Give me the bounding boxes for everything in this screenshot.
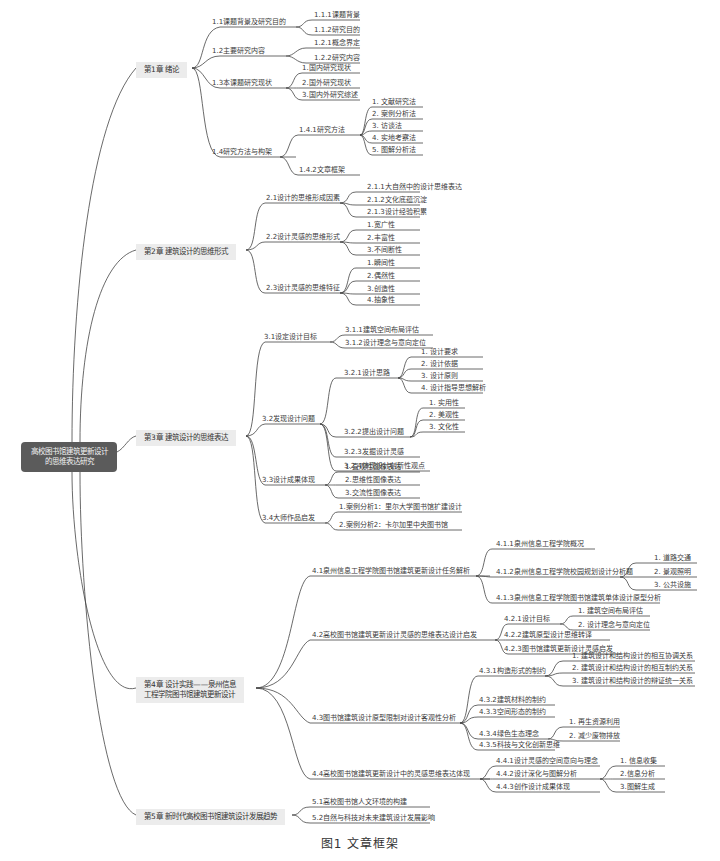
root-title-line2: 的思维表达研究: [45, 457, 94, 466]
item-4-4-2-2[interactable]: 2.信息分析: [620, 770, 655, 779]
section-4-4[interactable]: 4.4高校图书馆建筑更新设计中的灵感思维表达体现: [312, 770, 470, 779]
item-4-2-1-2[interactable]: 2. 设计理念与意向定位: [578, 621, 650, 630]
section-3-2[interactable]: 3.2发现设计问题: [262, 415, 315, 424]
sub-3-2-3[interactable]: 3.2.3发掘设计灵感: [344, 448, 404, 457]
sub-4-3-4[interactable]: 4.3.4绿色生态理念: [479, 730, 539, 739]
section-1-4[interactable]: 1.4研究方法与构架: [212, 148, 272, 157]
sub-4-3-1[interactable]: 4.3.1构造形式的制约: [479, 667, 546, 676]
item-1-4-1-5[interactable]: 5. 图解分析法: [372, 146, 416, 155]
item-4-3-4-2[interactable]: 2. 减少废物排放: [569, 732, 620, 741]
item-1-4-1-2[interactable]: 2. 案例分析法: [372, 110, 416, 119]
sub-4-1-2[interactable]: 4.1.2泉州信息工程学院校园规划设计分析题: [496, 568, 633, 577]
section-3-3[interactable]: 3.3设计成果体现: [262, 476, 315, 485]
item-1-3-2[interactable]: 2.国外研究现状: [302, 79, 351, 88]
item-2-1-3[interactable]: 2.1.3设计经验积累: [367, 208, 427, 217]
item-3-2-1-4[interactable]: 4. 设计指导思想解析: [421, 384, 486, 393]
item-2-1-2[interactable]: 2.1.2文化底蕴沉淀: [367, 196, 427, 205]
figure-caption: 图1 文章框架: [0, 834, 720, 851]
item-2-1-1[interactable]: 2.1.1大自然中的设计思维表达: [367, 183, 462, 192]
sub-1-4-1[interactable]: 1.4.1研究方法: [299, 126, 345, 135]
item-4-2-1-1[interactable]: 1. 建筑空间布局评估: [578, 607, 643, 616]
item-3-2-2-3[interactable]: 3. 文化性: [429, 423, 459, 432]
sub-4-4-2[interactable]: 4.4.2设计深化与图解分析: [496, 770, 577, 779]
item-2-2-1[interactable]: 1.宽广性: [367, 221, 395, 230]
item-3-3-1[interactable]: 1.直观性图像表达: [345, 463, 401, 472]
item-4-1-2-3[interactable]: 3. 公共设施: [654, 581, 691, 590]
item-1-2-1[interactable]: 1.2.1概念界定: [314, 39, 360, 48]
item-4-3-1-3[interactable]: 3. 建筑设计和结构设计的辩证统一关系: [572, 677, 693, 686]
item-3-2-1-2[interactable]: 2. 设计依据: [421, 360, 458, 369]
item-3-2-2-2[interactable]: 2. 美观性: [429, 411, 459, 420]
section-4-3[interactable]: 4.3图书馆建筑设计原型限制对设计客观性分析: [312, 714, 456, 723]
section-1-1[interactable]: 1.1课题背景及研究目的: [212, 18, 286, 27]
sub-4-1-3[interactable]: 4.1.3泉州信息工程学院图书馆建筑单体设计原型分析: [496, 594, 661, 603]
chapter-3-node[interactable]: 第3章 建筑设计的思维表达: [136, 430, 236, 446]
section-4-1[interactable]: 4.1泉州信息工程学院图书馆建筑更新设计任务解析: [312, 567, 470, 576]
item-4-3-4-1[interactable]: 1. 再生资源利用: [569, 718, 620, 727]
chapter-4-line1: 第4章 设计实践——泉州信息: [144, 680, 236, 689]
section-5-1[interactable]: 5.1高校图书馆人文环境的构建: [312, 798, 407, 807]
item-2-3-3[interactable]: 3.创造性: [367, 285, 395, 294]
chapter-2-node[interactable]: 第2章 建筑设计的思维形式: [136, 244, 236, 260]
item-3-3-2[interactable]: 2.思维性图像表达: [345, 476, 401, 485]
item-3-4-2[interactable]: 2.案例分析2：卡尔加里中央图书馆: [339, 521, 448, 530]
item-2-3-4[interactable]: 4.抽象性: [367, 296, 395, 305]
section-3-4[interactable]: 3.4大师作品启发: [262, 514, 315, 523]
sub-4-4-3[interactable]: 4.4.3创作设计成果体现: [496, 783, 570, 792]
section-5-2[interactable]: 5.2自然与科技对未来建筑设计发展影响: [312, 814, 435, 823]
chapter-1-node[interactable]: 第1章 绪论: [136, 62, 187, 78]
sub-4-2-1[interactable]: 4.2.1设计目标: [504, 615, 550, 624]
item-4-3-1-1[interactable]: 1. 建筑设计和结构设计的相互协调关系: [572, 652, 693, 661]
root-node[interactable]: 高校图书馆建筑更新设计的思维表达研究: [21, 442, 117, 472]
item-4-1-2-1[interactable]: 1. 道路交通: [654, 554, 691, 563]
item-3-4-1[interactable]: 1.案例分析1：里尔大学图书馆扩建设计: [339, 503, 462, 512]
sub-3-2-2[interactable]: 3.2.2提出设计问题: [344, 428, 404, 437]
sub-1-4-2[interactable]: 1.4.2文章框架: [299, 166, 345, 175]
section-2-1[interactable]: 2.1设计的思维形成因素: [266, 194, 340, 203]
section-4-2[interactable]: 4.2高校图书馆建筑更新设计灵感的思维表达设计启发: [312, 631, 477, 640]
sub-4-3-2[interactable]: 4.3.2建筑材料的制约: [479, 696, 546, 705]
section-1-3[interactable]: 1.3本课题研究现状: [212, 79, 272, 88]
sub-4-4-1[interactable]: 4.4.1设计灵感的空间意向与理念: [496, 757, 598, 766]
item-4-3-1-2[interactable]: 2. 建筑设计和结构设计的相互制约关系: [572, 664, 693, 673]
item-4-1-2-2[interactable]: 2. 景观照明: [654, 568, 691, 577]
item-2-3-1[interactable]: 1.瞬间性: [367, 259, 395, 268]
section-1-2[interactable]: 1.2主要研究内容: [212, 47, 265, 56]
chapter-4-node[interactable]: 第4章 设计实践——泉州信息工程学院图书馆建筑更新设计: [136, 677, 244, 703]
sub-4-3-5[interactable]: 4.3.5科技与文化创新思维: [479, 741, 560, 750]
item-1-3-1[interactable]: 1.国内研究现状: [302, 64, 351, 73]
item-1-4-1-3[interactable]: 3. 访谈法: [372, 122, 402, 131]
item-3-1-1[interactable]: 3.1.1建筑空间布局评估: [345, 326, 419, 335]
item-3-1-2[interactable]: 3.1.2设计理念与意向定位: [345, 339, 426, 348]
item-2-2-3[interactable]: 3.不间断性: [367, 246, 402, 255]
item-4-4-2-3[interactable]: 3.图解生成: [620, 783, 655, 792]
item-1-3-3[interactable]: 3.国内外研究综述: [302, 91, 358, 100]
section-2-3[interactable]: 2.3设计灵感的思维特征: [266, 284, 340, 293]
root-title-line1: 高校图书馆建筑更新设计: [31, 447, 108, 456]
item-1-2-2[interactable]: 1.2.2研究内容: [314, 54, 360, 63]
sub-4-3-3[interactable]: 4.3.3空间形态的制约: [479, 708, 546, 717]
item-1-4-1-1[interactable]: 1. 文献研究法: [372, 98, 416, 107]
item-2-3-2[interactable]: 2.偶然性: [367, 272, 395, 281]
item-1-1-1[interactable]: 1.1.1课题背景: [314, 11, 360, 20]
item-2-2-2[interactable]: 2.丰富性: [367, 234, 395, 243]
section-2-2[interactable]: 2.2设计灵感的思维形式: [266, 233, 340, 242]
section-3-1[interactable]: 3.1设定设计目标: [264, 333, 317, 342]
item-3-2-1-3[interactable]: 3. 设计原则: [421, 372, 458, 381]
item-4-4-2-1[interactable]: 1. 信息收集: [620, 757, 657, 766]
item-3-3-3[interactable]: 3.交流性图像表达: [345, 489, 401, 498]
chapter-4-line2: 工程学院图书馆建筑更新设计: [144, 690, 235, 699]
chapter-5-node[interactable]: 第5章 新时代高校图书馆建筑设计发展趋势: [136, 809, 285, 825]
item-3-2-1-1[interactable]: 1. 设计要求: [421, 348, 458, 357]
sub-3-2-1[interactable]: 3.2.1设计思路: [344, 369, 390, 378]
item-1-4-1-4[interactable]: 4. 实地考察法: [372, 134, 416, 143]
item-1-1-2[interactable]: 1.1.2研究目的: [314, 26, 360, 35]
sub-4-1-1[interactable]: 4.1.1泉州信息工程学院概况: [496, 540, 584, 549]
sub-4-2-2[interactable]: 4.2.2建筑原型设计思维转译: [504, 631, 592, 640]
item-3-2-2-1[interactable]: 1. 实用性: [429, 399, 459, 408]
